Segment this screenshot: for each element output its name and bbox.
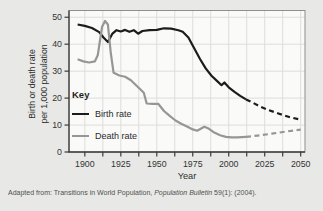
x-axis-label: Year [69,171,305,181]
y-tick-label: 40 [52,39,62,49]
source-caption: Adapted from: Transitions in World Popul… [8,189,320,196]
legend-item-birth-rate: Birth rate [72,109,137,119]
y-axis-label-line1: Birth or death rate [27,19,39,149]
y-tick-label: 10 [52,120,62,130]
caption-suffix: 59(1): (2004). [212,189,256,196]
caption-italic-title: Population Bulletin [154,189,212,196]
x-tick-label: 1925 [111,159,131,169]
chart-legend: Key Birth rate Death rate [72,89,137,153]
x-tick-label: 2050 [291,159,311,169]
caption-prefix: Adapted from: Transitions in World Popul… [8,189,154,196]
legend-label-death-rate: Death rate [95,131,137,141]
x-tick-label: 2025 [255,159,275,169]
y-tick-label: 20 [52,93,62,103]
death-rate-line-swatch [72,135,89,138]
y-tick-label: 50 [52,12,62,22]
legend-item-death-rate: Death rate [72,131,137,141]
legend-label-birth-rate: Birth rate [95,109,132,119]
legend-title: Key [72,89,137,100]
y-axis-label: Birth or death rate per 1,000 population [27,19,51,149]
y-tick-label: 0 [57,147,62,157]
demographic-transition-figure: 190019251950197520002025205001020304050 … [0,0,323,211]
x-tick-label: 1900 [75,159,95,169]
birth-rate-line-swatch [72,113,89,116]
x-tick-label: 2000 [219,159,239,169]
x-tick-label: 1950 [147,159,167,169]
y-axis-label-line2: per 1,000 population [39,19,51,149]
x-tick-label: 1975 [183,159,203,169]
y-tick-label: 30 [52,66,62,76]
